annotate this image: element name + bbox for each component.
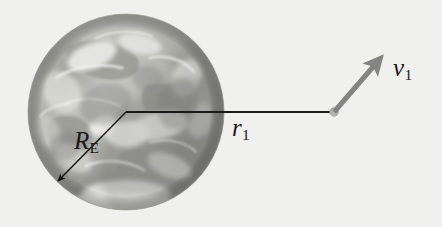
label-earth-radius: RE [74, 128, 99, 153]
label-earth-radius-symbol: R [74, 127, 89, 154]
label-earth-radius-subscript: E [90, 139, 99, 156]
orbital-mechanics-figure: RE r1 v1 [0, 0, 442, 227]
figure-canvas [0, 0, 442, 227]
label-velocity-symbol: v [393, 54, 404, 81]
label-velocity-subscript: 1 [404, 66, 412, 83]
label-orbital-radius-symbol: r [232, 114, 242, 141]
label-orbital-radius-subscript: 1 [242, 126, 250, 143]
label-velocity: v1 [393, 55, 412, 80]
label-orbital-radius: r1 [232, 115, 249, 140]
